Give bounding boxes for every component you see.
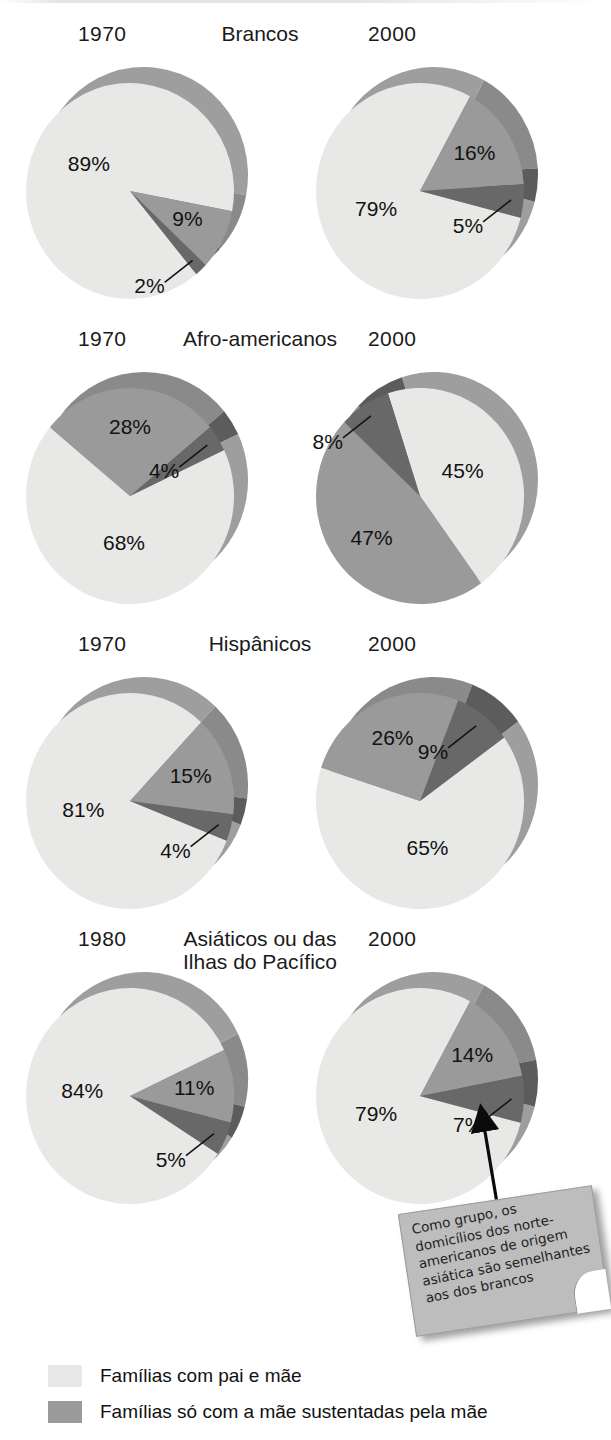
- slice-value-label: 11%: [170, 1076, 218, 1100]
- group-header: 1970Brancos2000: [0, 20, 610, 66]
- legend-swatch: [48, 1365, 82, 1387]
- pie-chart: [295, 371, 545, 621]
- year-label-left: 1970: [78, 327, 126, 351]
- year-label-left: 1970: [78, 22, 126, 46]
- group-header: 1980Asiáticos ou das Ilhas do Pacífico20…: [0, 925, 610, 971]
- group-title: Brancos: [160, 22, 360, 45]
- year-label-left: 1970: [78, 632, 126, 656]
- slice-value-label: 79%: [352, 197, 400, 221]
- legend-item: Famílias com pai e mãe: [0, 1358, 610, 1394]
- year-label-left: 1980: [78, 927, 126, 951]
- slice-value-label-outside: 8%: [297, 430, 343, 454]
- pie-panel: 84%11%5%: [5, 971, 255, 1221]
- pie-panel: 65%26%9%: [295, 676, 545, 926]
- pie-panel: 68%28%4%: [5, 371, 255, 621]
- slice-value-label: 47%: [348, 526, 396, 550]
- slice-value-label: 16%: [450, 141, 498, 165]
- slice-value-label: 68%: [100, 531, 148, 555]
- slice-value-label: 15%: [167, 764, 215, 788]
- slice-value-label-outside: 5%: [140, 1148, 186, 1172]
- slice-value-label-outside: 4%: [133, 459, 179, 483]
- year-label-right: 2000: [368, 927, 416, 951]
- pie-panel: 79%16%5%: [295, 66, 545, 316]
- pie-group: 1970Brancos200089%9%2%79%16%5%: [0, 20, 610, 320]
- pie-panel: 45%47%8%: [295, 371, 545, 621]
- pie-panel: 81%15%4%: [5, 676, 255, 926]
- group-header: 1970Afro-americanos2000: [0, 325, 610, 371]
- year-label-right: 2000: [368, 22, 416, 46]
- legend-label: Famílias só com a mãe sustentadas pela m…: [100, 1401, 488, 1423]
- pie-panel: 89%9%2%: [5, 66, 255, 316]
- group-title: Afro-americanos: [160, 327, 360, 350]
- slice-value-label-outside: 2%: [119, 274, 165, 298]
- pie-front-face: [26, 83, 234, 299]
- pie-front-face: [316, 693, 524, 909]
- slice-value-label: 81%: [59, 798, 107, 822]
- slice-value-label: 14%: [448, 1043, 496, 1067]
- slice-value-label: 79%: [352, 1102, 400, 1126]
- legend-swatch: [48, 1401, 82, 1423]
- pie-group: 1970Hispânicos200081%15%4%65%26%9%: [0, 630, 610, 930]
- slice-value-label: 28%: [106, 415, 154, 439]
- year-label-right: 2000: [368, 327, 416, 351]
- slice-value-label: 65%: [403, 836, 451, 860]
- group-title: Asiáticos ou das Ilhas do Pacífico: [160, 927, 360, 973]
- group-header: 1970Hispânicos2000: [0, 630, 610, 676]
- page-top-rule: [0, 0, 610, 3]
- pie-front-face: [316, 988, 524, 1204]
- legend: Famílias com pai e mãeFamílias só com a …: [0, 1358, 610, 1430]
- pie-panel: 79%14%7%: [295, 971, 545, 1221]
- pie-chart: [295, 66, 545, 316]
- pie-chart: [295, 971, 545, 1221]
- pie-front-face: [26, 693, 234, 909]
- slice-value-label: 84%: [58, 1079, 106, 1103]
- slice-value-label-outside: 9%: [402, 740, 448, 764]
- slice-value-label-outside: 7%: [437, 1113, 483, 1137]
- legend-label: Famílias com pai e mãe: [100, 1365, 302, 1387]
- pie-front-face: [316, 388, 524, 604]
- year-label-right: 2000: [368, 632, 416, 656]
- legend-item: Famílias só com a mãe sustentadas pela m…: [0, 1394, 610, 1430]
- pie-chart: [5, 371, 255, 621]
- slice-value-label: 9%: [163, 207, 211, 231]
- slice-value-label-outside: 4%: [145, 839, 191, 863]
- slice-value-label: 89%: [65, 152, 113, 176]
- pie-chart: [5, 676, 255, 926]
- group-title: Hispânicos: [160, 632, 360, 655]
- slice-value-label: 45%: [439, 459, 487, 483]
- pie-chart: [295, 676, 545, 926]
- pie-front-face: [316, 83, 524, 299]
- pie-group: 1980Asiáticos ou das Ilhas do Pacífico20…: [0, 925, 610, 1225]
- slice-value-label-outside: 5%: [437, 214, 483, 238]
- pie-group: 1970Afro-americanos200068%28%4%45%47%8%: [0, 325, 610, 625]
